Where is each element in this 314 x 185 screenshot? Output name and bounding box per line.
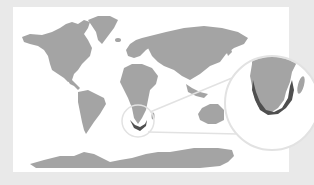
callout-connector-bottom [148,132,238,134]
australia [198,104,224,124]
asia [148,26,248,80]
map-figure [0,0,314,185]
iceland [115,38,121,42]
land-masses [22,16,248,168]
south-america [78,90,106,134]
antarctica [30,148,234,168]
greenland [88,16,118,44]
world-map [0,0,314,185]
central-america [66,78,80,90]
north-america [22,20,92,82]
